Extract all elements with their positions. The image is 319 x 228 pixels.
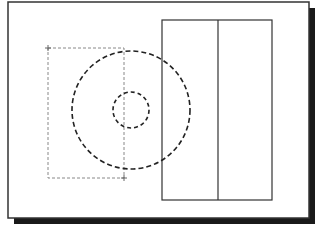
diagram-canvas (0, 0, 319, 228)
page-frame (8, 2, 309, 218)
diagram-svg (0, 0, 319, 228)
